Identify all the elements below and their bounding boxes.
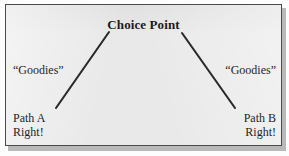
right-path-verdict: Right! xyxy=(244,126,276,140)
left-path-verdict: Right! xyxy=(13,126,45,140)
right-path-outcome: Path B Right! xyxy=(244,112,276,139)
left-goodies-label: “Goodies” xyxy=(13,63,64,78)
left-branch-line xyxy=(56,32,109,108)
choice-point-diagram-panel: Choice Point “Goodies” “Goodies” Path A … xyxy=(5,4,282,146)
right-goodies-label: “Goodies” xyxy=(225,63,276,78)
left-path-name: Path A xyxy=(13,112,45,126)
figure-screenshot: Choice Point “Goodies” “Goodies” Path A … xyxy=(0,0,289,156)
right-path-name: Path B xyxy=(244,112,276,126)
left-path-outcome: Path A Right! xyxy=(13,112,45,139)
